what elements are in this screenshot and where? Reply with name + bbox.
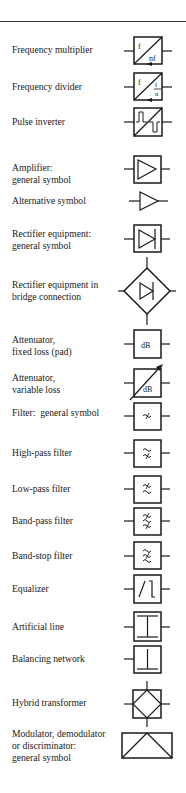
equalizer-icon <box>124 575 170 603</box>
attenuator-variable-icon: dB <box>124 364 170 400</box>
symbol-layer: f nf f f n <box>0 0 186 793</box>
svg-text:f: f <box>155 81 158 88</box>
hybrid-transformer-icon <box>124 681 170 727</box>
svg-text:n: n <box>155 90 159 97</box>
low-pass-filter-icon <box>124 476 170 503</box>
frequency-multiplier-icon: f nf <box>124 37 172 66</box>
modulator-icon <box>122 733 172 758</box>
svg-text:f: f <box>138 42 141 51</box>
band-stop-filter-icon <box>124 542 170 569</box>
svg-text:dB: dB <box>143 385 152 394</box>
amplifier-alternative-icon <box>129 192 168 210</box>
pulse-inverter-icon <box>124 108 172 136</box>
high-pass-filter-icon <box>124 440 170 467</box>
rectifier-bridge-icon <box>118 257 176 325</box>
artificial-line-icon <box>124 612 170 641</box>
rectifier-icon <box>124 225 170 252</box>
attenuator-fixed-icon: dB <box>124 330 170 358</box>
svg-text:dB: dB <box>141 341 150 350</box>
band-pass-filter-icon <box>124 508 170 535</box>
svg-text:f: f <box>138 78 141 87</box>
balancing-network-icon <box>124 646 161 673</box>
svg-text:nf: nf <box>149 54 156 63</box>
filter-icon <box>124 403 170 430</box>
frequency-divider-icon: f f n <box>124 73 172 102</box>
amplifier-icon <box>124 156 170 183</box>
